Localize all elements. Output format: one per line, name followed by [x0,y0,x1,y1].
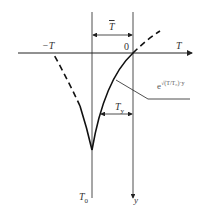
ty-label: Ty [115,102,124,115]
exponential-curve-dashed-right [133,31,160,53]
t0-label: T0 [79,192,88,205]
t-axis-label: T [176,41,182,51]
exponential-curve-solid [92,53,133,150]
neg-t-label: −T [42,41,54,51]
curve-equation-exponent: √(T/T₀)·y [161,80,184,86]
diagram-canvas [0,0,204,212]
y-axis-label: y [134,196,138,205]
origin-label: 0 [124,42,129,52]
t-bar-label: T [109,22,115,32]
mirror-curve-solid [80,106,92,150]
ty-label-sub: y [121,107,125,115]
mirror-curve-dashed [53,53,80,106]
curve-equation-label: e√(T/T₀)·y [157,80,184,91]
t0-label-sub: 0 [85,197,89,205]
